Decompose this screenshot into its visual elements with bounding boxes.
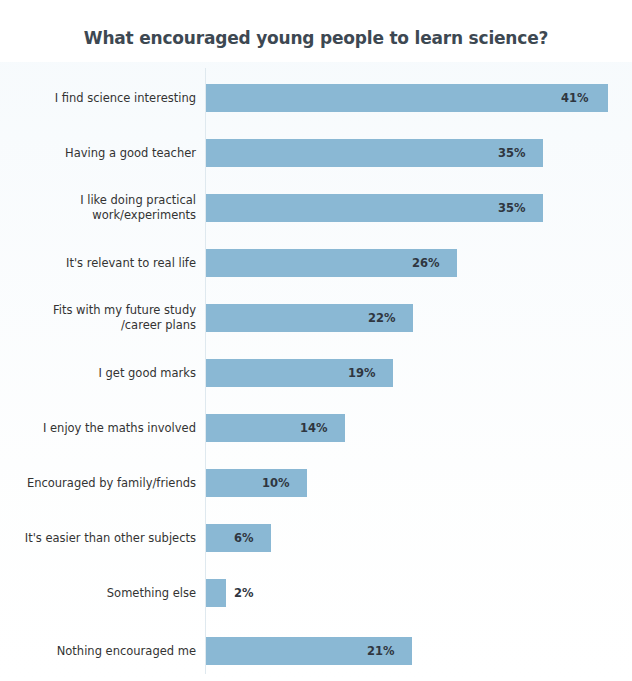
category-label: I like doing practicalwork/experiments	[0, 194, 196, 222]
bar-row: Something else2%	[0, 579, 632, 607]
chart-page: What encouraged young people to learn sc…	[0, 0, 632, 681]
category-label-line: /career plans	[121, 318, 196, 333]
category-label-line: Having a good teacher	[65, 146, 196, 161]
bar[interactable]	[206, 139, 543, 167]
category-label: I find science interesting	[0, 84, 196, 112]
bar-row: I get good marks19%	[0, 359, 632, 387]
bar-track: 26%	[206, 249, 632, 277]
bar[interactable]	[206, 579, 226, 607]
category-label-line: Something else	[107, 586, 196, 601]
bar-row: I enjoy the maths involved14%	[0, 414, 632, 442]
category-label-line: I find science interesting	[55, 91, 196, 106]
bar-row: Fits with my future study/career plans22…	[0, 304, 632, 332]
category-label: Nothing encouraged me	[0, 637, 196, 665]
category-label: Fits with my future study/career plans	[0, 304, 196, 332]
bar[interactable]	[206, 84, 608, 112]
bar-track: 41%	[206, 84, 632, 112]
bar-value-label: 22%	[368, 304, 396, 332]
bar-row: Encouraged by family/friends10%	[0, 469, 632, 497]
category-label: Having a good teacher	[0, 139, 196, 167]
bar-row: I find science interesting41%	[0, 84, 632, 112]
bar-row: It's easier than other subjects6%	[0, 524, 632, 552]
bar-row: It's relevant to real life26%	[0, 249, 632, 277]
category-label: I enjoy the maths involved	[0, 414, 196, 442]
bar-value-label: 41%	[561, 84, 589, 112]
bar-track: 19%	[206, 359, 632, 387]
bar-track: 35%	[206, 194, 632, 222]
bar[interactable]	[206, 469, 307, 497]
bar[interactable]	[206, 194, 543, 222]
bar-track: 21%	[206, 637, 632, 665]
bar-value-label: 10%	[262, 469, 290, 497]
bar-row: Having a good teacher35%	[0, 139, 632, 167]
bar-track: 22%	[206, 304, 632, 332]
category-label-line: I enjoy the maths involved	[43, 421, 196, 436]
category-label: It's easier than other subjects	[0, 524, 196, 552]
category-label-line: It's relevant to real life	[66, 256, 196, 271]
category-label: It's relevant to real life	[0, 249, 196, 277]
category-label-line: I get good marks	[98, 366, 196, 381]
bar-chart-plot-area: I find science interesting41%Having a go…	[0, 62, 632, 681]
category-label: I get good marks	[0, 359, 196, 387]
bar-track: 6%	[206, 524, 632, 552]
bar-track: 10%	[206, 469, 632, 497]
bar-row: I like doing practicalwork/experiments35…	[0, 194, 632, 222]
chart-title: What encouraged young people to learn sc…	[0, 28, 632, 48]
bar-value-label: 26%	[412, 249, 440, 277]
category-label-line: I like doing practical	[80, 193, 196, 208]
bar-track: 35%	[206, 139, 632, 167]
bar-value-label: 2%	[234, 579, 254, 607]
category-label: Something else	[0, 579, 196, 607]
bar-row: Nothing encouraged me21%	[0, 637, 632, 665]
bar-track: 2%	[206, 579, 632, 607]
category-label: Encouraged by family/friends	[0, 469, 196, 497]
category-label-line: It's easier than other subjects	[25, 531, 196, 546]
category-label-line: Encouraged by family/friends	[27, 476, 196, 491]
bar-value-label: 14%	[300, 414, 328, 442]
category-label-line: work/experiments	[92, 208, 196, 223]
category-label-line: Nothing encouraged me	[57, 644, 196, 659]
bar-value-label: 19%	[348, 359, 376, 387]
category-label-line: Fits with my future study	[53, 303, 196, 318]
bar-value-label: 35%	[498, 139, 526, 167]
bar-value-label: 35%	[498, 194, 526, 222]
bar-track: 14%	[206, 414, 632, 442]
bar-value-label: 6%	[234, 524, 254, 552]
bar-value-label: 21%	[367, 637, 395, 665]
